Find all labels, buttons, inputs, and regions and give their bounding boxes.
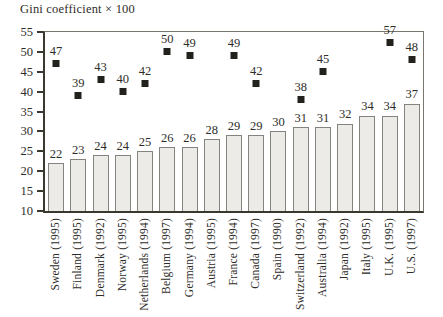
bar-value-label: 30 bbox=[272, 116, 285, 129]
marker-value-label: 50 bbox=[161, 33, 174, 46]
bar-columns: 2247Sweden (1995)2339Finland (1995)2443D… bbox=[45, 32, 423, 211]
category-column: 2443Denmark (1992) bbox=[89, 32, 111, 211]
y-axis-tick-label: 15 bbox=[0, 185, 33, 198]
marker-value-label: 42 bbox=[139, 65, 152, 78]
bar bbox=[182, 147, 198, 211]
x-axis-label: Switzerland (1992) bbox=[294, 218, 308, 310]
bar-value-label: 28 bbox=[206, 124, 219, 137]
x-axis-label: U.K. (1995) bbox=[383, 218, 397, 276]
x-axis-label: Australia (1994) bbox=[316, 218, 330, 297]
x-axis-label: Netherlands (1994) bbox=[138, 218, 152, 311]
bar bbox=[226, 135, 242, 211]
bar bbox=[159, 147, 175, 211]
plot-area: 10152025303540455055 2247Sweden (1995)23… bbox=[43, 31, 424, 213]
x-axis-label: Spain (1990) bbox=[271, 218, 285, 280]
category-column: 2247Sweden (1995) bbox=[45, 32, 67, 211]
y-axis-tick bbox=[37, 190, 43, 192]
y-axis-tick-label: 35 bbox=[0, 105, 33, 118]
gini-coefficient-chart: Gini coefficient × 100 10152025303540455… bbox=[0, 0, 443, 317]
category-column: 34Italy (1995) bbox=[356, 32, 378, 211]
bar-value-label: 31 bbox=[317, 112, 330, 125]
bar-value-label: 32 bbox=[339, 108, 352, 121]
square-marker bbox=[319, 68, 326, 75]
y-axis-tick bbox=[37, 210, 43, 212]
bar bbox=[315, 127, 331, 211]
marker-value-label: 40 bbox=[117, 73, 130, 86]
bar bbox=[359, 116, 375, 211]
bar-value-label: 29 bbox=[228, 120, 241, 133]
x-axis-label: Norway (1995) bbox=[116, 218, 130, 291]
category-column: 2650Belgium (1997) bbox=[156, 32, 178, 211]
square-marker bbox=[186, 52, 193, 59]
y-axis-tick-label: 10 bbox=[0, 205, 33, 218]
bar bbox=[70, 159, 86, 211]
y-axis-tick-label: 45 bbox=[0, 66, 33, 79]
y-axis-tick bbox=[37, 130, 43, 132]
y-axis-tick bbox=[37, 170, 43, 172]
category-column: 2339Finland (1995) bbox=[67, 32, 89, 211]
square-marker bbox=[97, 76, 104, 83]
y-axis-tick-label: 20 bbox=[0, 165, 33, 178]
marker-value-label: 39 bbox=[72, 77, 85, 90]
x-axis-label: Sweden (1995) bbox=[49, 218, 63, 291]
category-column: 3457U.K. (1995) bbox=[379, 32, 401, 211]
category-column: 30Spain (1990) bbox=[267, 32, 289, 211]
bar-value-label: 34 bbox=[383, 100, 396, 113]
bar-value-label: 24 bbox=[117, 140, 130, 153]
y-axis-tick-label: 55 bbox=[0, 26, 33, 39]
bar bbox=[93, 155, 109, 211]
y-axis-tick-label: 25 bbox=[0, 145, 33, 158]
marker-value-label: 57 bbox=[383, 24, 396, 37]
x-axis-label: Austria (1995) bbox=[205, 218, 219, 288]
bar bbox=[382, 116, 398, 211]
y-axis-tick-label: 40 bbox=[0, 85, 33, 98]
y-axis-tick-label: 30 bbox=[0, 125, 33, 138]
marker-value-label: 47 bbox=[50, 45, 63, 58]
bar-value-label: 31 bbox=[294, 112, 307, 125]
marker-value-label: 49 bbox=[183, 37, 196, 50]
marker-value-label: 45 bbox=[317, 53, 330, 66]
x-axis-label: France (1994) bbox=[227, 218, 241, 285]
bar bbox=[248, 135, 264, 211]
square-marker bbox=[230, 52, 237, 59]
bar bbox=[137, 151, 153, 211]
bar-value-label: 29 bbox=[250, 120, 263, 133]
y-axis-tick bbox=[37, 51, 43, 53]
bar-value-label: 22 bbox=[50, 148, 63, 161]
marker-value-label: 43 bbox=[94, 61, 107, 74]
y-axis-tick bbox=[37, 91, 43, 93]
square-marker bbox=[119, 88, 126, 95]
square-marker bbox=[253, 80, 260, 87]
x-axis-label: Japan (1992) bbox=[338, 218, 352, 280]
bar bbox=[270, 131, 286, 211]
square-marker bbox=[75, 92, 82, 99]
x-axis-label: Germany (1994) bbox=[183, 218, 197, 297]
x-axis-label: Belgium (1997) bbox=[160, 218, 174, 294]
bar-value-label: 26 bbox=[161, 132, 174, 145]
category-column: 2542Netherlands (1994) bbox=[134, 32, 156, 211]
y-axis-tick bbox=[37, 150, 43, 152]
marker-value-label: 49 bbox=[228, 37, 241, 50]
x-axis-label: Canada (1997) bbox=[249, 218, 263, 289]
chart-title: Gini coefficient × 100 bbox=[20, 2, 135, 17]
bar bbox=[337, 124, 353, 212]
bar bbox=[115, 155, 131, 211]
category-column: 3748U.S. (1997) bbox=[401, 32, 423, 211]
marker-value-label: 42 bbox=[250, 65, 263, 78]
y-axis-tick bbox=[37, 31, 43, 33]
square-marker bbox=[386, 39, 393, 46]
x-axis-label: Finland (1995) bbox=[71, 218, 85, 289]
bar-value-label: 37 bbox=[406, 88, 419, 101]
x-axis-label: Denmark (1992) bbox=[94, 218, 108, 297]
y-axis-tick-label: 50 bbox=[0, 46, 33, 59]
category-column: 2649Germany (1994) bbox=[178, 32, 200, 211]
bar bbox=[204, 139, 220, 211]
category-column: 2440Norway (1995) bbox=[112, 32, 134, 211]
bar-value-label: 34 bbox=[361, 100, 374, 113]
category-column: 2942Canada (1997) bbox=[245, 32, 267, 211]
marker-value-label: 48 bbox=[406, 41, 419, 54]
square-marker bbox=[164, 48, 171, 55]
category-column: 3145Australia (1994) bbox=[312, 32, 334, 211]
bar bbox=[48, 163, 64, 211]
category-column: 2949France (1994) bbox=[223, 32, 245, 211]
